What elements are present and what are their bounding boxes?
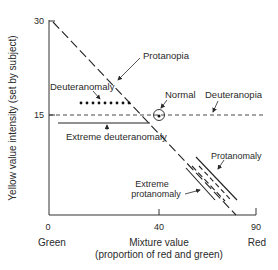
x-tick-label-40: 40	[154, 222, 164, 232]
deuteranomaly-arrow	[93, 91, 100, 99]
extreme-protanomaly-label-line2: protanomaly	[131, 189, 181, 199]
x-tick-label-0: 0	[45, 222, 50, 232]
protanomaly-label: Protanomaly	[211, 151, 262, 161]
normal-label: Normal	[165, 89, 196, 100]
protanomaly-lines	[186, 157, 237, 201]
protanomaly-arrow	[218, 160, 224, 169]
leader-arrows	[93, 58, 224, 194]
normal-arrow	[161, 100, 167, 108]
x-axis-title: Mixture value	[129, 237, 189, 248]
green-label: Green	[38, 237, 66, 248]
color-matching-diagram: 30 15 0 40 90 Green Red Mixture value (p…	[0, 0, 278, 270]
extreme-deuteranomaly-label: Extreme deuteranomaly	[66, 131, 167, 142]
deuteranomaly-dots	[80, 102, 131, 105]
normal-point	[158, 115, 161, 118]
deuteranopia-arrow	[213, 101, 218, 112]
protanopia-label: Protanopia	[143, 50, 190, 61]
red-label: Red	[248, 237, 266, 248]
extreme-protanomaly-label-line1: Extreme	[135, 179, 169, 189]
x-tick-label-90: 90	[251, 222, 261, 232]
extreme-protanomaly-arrow	[185, 190, 200, 194]
x-axis-subtitle: (proportion of red and green)	[95, 249, 223, 260]
y-tick-label-15: 15	[34, 110, 44, 120]
y-tick-label-30: 30	[34, 16, 44, 26]
protanopia-arrow	[118, 58, 140, 80]
y-axis-title: Yellow value intensity (set by subject)	[7, 35, 18, 200]
deuteranomaly-label: Deuteranomaly	[50, 81, 115, 92]
deuteranopia-label: Deuteranopia	[205, 89, 263, 100]
